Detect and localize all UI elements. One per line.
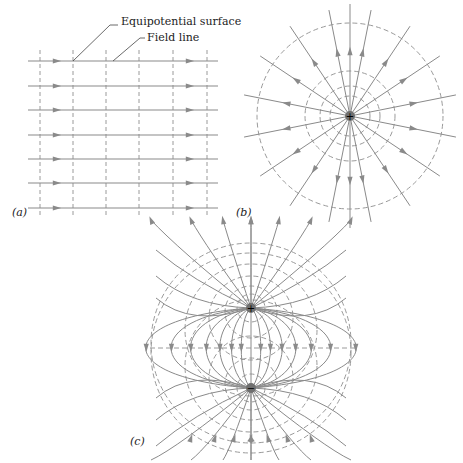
arrowhead-icon [347, 47, 352, 55]
arrowhead-icon [186, 205, 194, 210]
arrowhead-icon [307, 216, 313, 225]
arrowhead-icon [53, 83, 61, 88]
arrowhead-icon [267, 434, 272, 443]
arrowhead-icon [186, 132, 194, 137]
field-line [251, 388, 351, 460]
arrowhead-icon [186, 58, 194, 63]
arrowhead-icon [186, 180, 194, 185]
arrowhead-icon [399, 78, 407, 85]
field-line [151, 220, 251, 308]
arrowhead-icon [186, 107, 194, 112]
electric-field-figure: ++− Equipotential surface Field line (a)… [0, 0, 463, 463]
panel-b-point-charge: + [244, 4, 456, 228]
arrowhead-icon [144, 344, 149, 352]
leader-line [113, 38, 145, 61]
arrowhead-icon [189, 216, 195, 225]
arrowhead-icon [53, 180, 61, 185]
field-line [251, 388, 346, 420]
panel-b-label: (b) [236, 206, 252, 219]
field-line [251, 220, 351, 308]
arrowhead-icon [221, 216, 226, 225]
arrowhead-icon [276, 216, 281, 225]
field-line [191, 388, 251, 460]
arrowhead-icon [53, 107, 61, 112]
arrowhead-icon [230, 434, 235, 443]
panel-a-uniform-field [28, 25, 218, 215]
panel-c-label: (c) [130, 435, 145, 448]
equipotential-surface-annotation: Equipotential surface [121, 15, 241, 28]
arrowhead-icon [382, 58, 389, 66]
arrowhead-icon [399, 148, 407, 155]
minus-sign: − [247, 383, 255, 394]
field-line [251, 276, 346, 308]
plus-sign: + [247, 303, 255, 314]
arrowhead-icon [53, 156, 61, 161]
arrowhead-icon [292, 148, 300, 155]
field-line-annotation: Field line [147, 31, 199, 44]
arrowhead-icon [53, 58, 61, 63]
plus-sign: + [346, 111, 354, 122]
arrowhead-icon [186, 156, 194, 161]
field-line [156, 276, 251, 308]
field-line [251, 220, 311, 308]
field-line [151, 388, 251, 460]
arrowhead-icon [347, 177, 352, 185]
figure-canvas: ++− [0, 0, 463, 463]
arrowhead-icon [382, 165, 389, 173]
field-line [191, 220, 251, 308]
arrowhead-icon [312, 58, 319, 66]
arrowhead-icon [312, 165, 319, 173]
arrowhead-icon [53, 205, 61, 210]
leader-line [73, 25, 118, 61]
panel-a-label: (a) [12, 206, 27, 219]
arrowhead-icon [53, 132, 61, 137]
field-line [156, 388, 251, 420]
panel-c-dipole: +− [144, 216, 359, 460]
arrowhead-icon [186, 83, 194, 88]
arrowhead-icon [292, 78, 300, 85]
field-line [156, 250, 251, 308]
